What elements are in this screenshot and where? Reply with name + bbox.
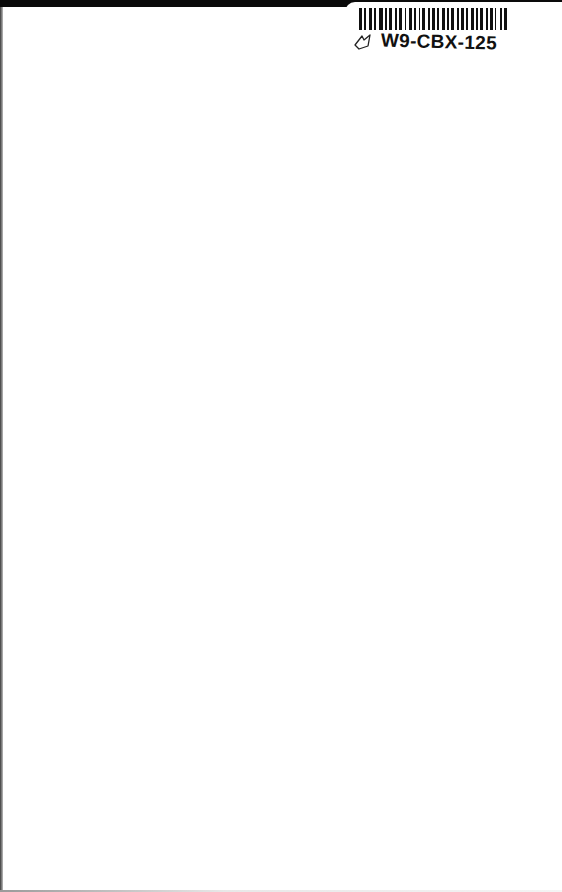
sticker-label-row: W9-CBX-125: [353, 31, 497, 53]
library-barcode-sticker: W9-CBX-125: [345, 2, 562, 60]
scan-left-border: [0, 7, 3, 892]
leaf-outline-icon: [353, 33, 373, 51]
barcode-id-text: W9-CBX-125: [381, 29, 498, 54]
barcode-icon: [359, 8, 529, 30]
